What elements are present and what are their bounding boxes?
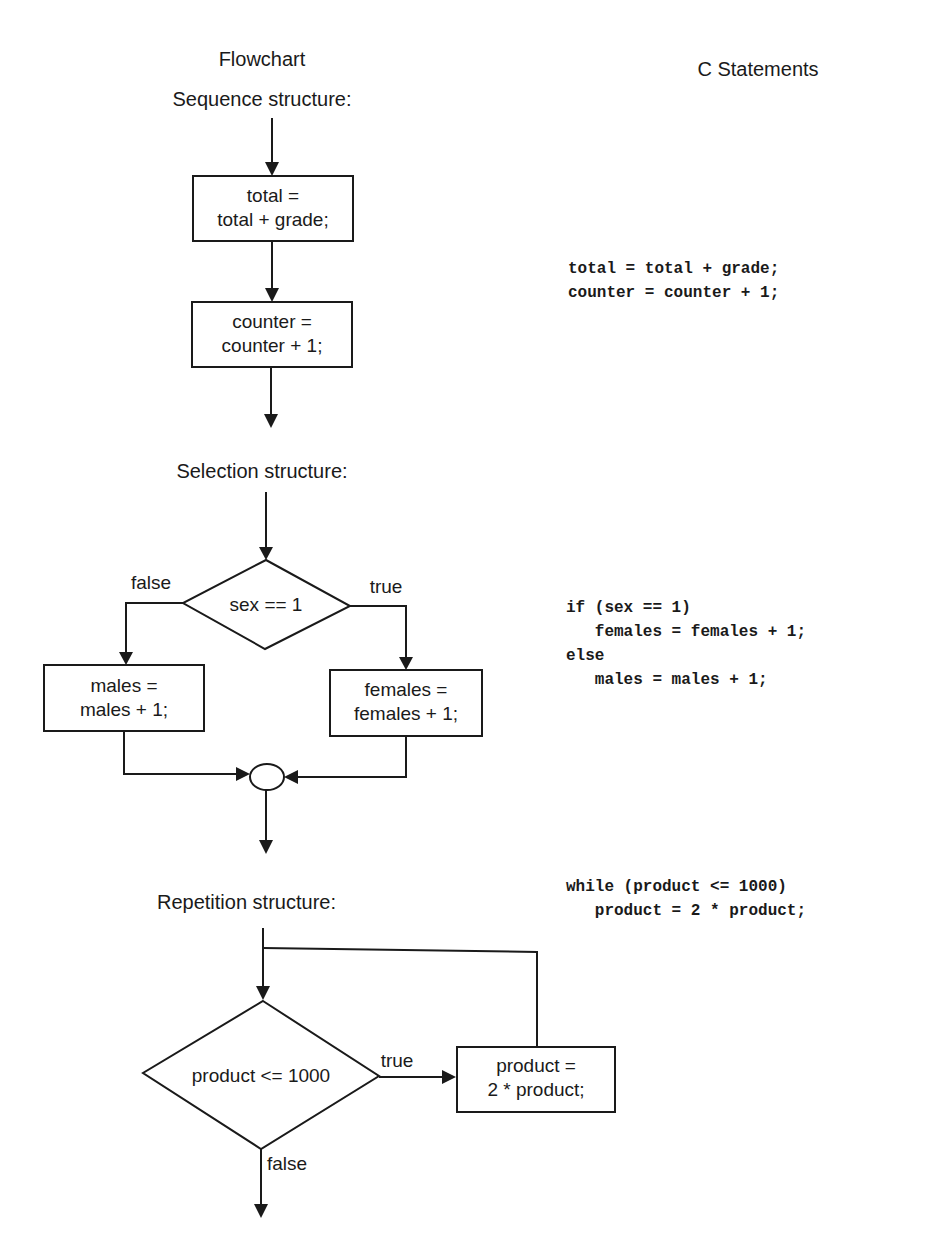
box-line: females + 1;	[354, 703, 458, 724]
arrow-head-icon	[265, 162, 279, 176]
code-line: while (product <= 1000)	[566, 878, 787, 896]
repetition-title: Repetition structure:	[157, 891, 336, 913]
code-line: counter = counter + 1;	[568, 284, 779, 302]
box-line: counter + 1;	[222, 335, 323, 356]
code-line: if (sex == 1)	[566, 599, 691, 617]
arrow-head-icon	[264, 414, 278, 428]
c-statements-header: C Statements	[697, 58, 818, 80]
selection-structure: Selection structure: sex == 1 false male…	[44, 460, 806, 854]
false-label: false	[131, 572, 171, 593]
arrow-head-icon	[254, 1204, 268, 1218]
false-merge-line	[124, 731, 238, 774]
box-line: product =	[496, 1055, 576, 1076]
box-line: total =	[247, 185, 299, 206]
code-line: males = males + 1;	[566, 671, 768, 689]
arrow-head-icon	[236, 767, 250, 781]
repetition-structure: Repetition structure: product <= 1000 tr…	[143, 878, 806, 1218]
box-line: total + grade;	[217, 209, 328, 230]
arrow-head-icon	[119, 652, 133, 665]
box-line: females =	[365, 679, 448, 700]
false-label: false	[267, 1153, 307, 1174]
code-line: females = females + 1;	[566, 623, 806, 641]
true-merge-line	[297, 736, 406, 777]
box-line: counter =	[232, 311, 312, 332]
arrow-head-icon	[265, 288, 279, 302]
arrow-head-icon	[259, 840, 273, 854]
selection-title: Selection structure:	[176, 460, 347, 482]
code-line: total = total + grade;	[568, 260, 779, 278]
flowchart-header: Flowchart	[219, 48, 306, 70]
condition-text: sex == 1	[230, 594, 303, 615]
arrow-head-icon	[256, 986, 270, 1000]
false-branch-line	[126, 603, 183, 655]
true-label: true	[370, 576, 403, 597]
box-line: males + 1;	[80, 699, 168, 720]
box-line: 2 * product;	[487, 1079, 584, 1100]
code-line: product = 2 * product;	[566, 902, 806, 920]
arrow-head-icon	[284, 770, 298, 784]
flowchart-diagram: Flowchart C Statements Sequence structur…	[0, 0, 944, 1252]
merge-connector-circle	[250, 764, 284, 790]
arrow-head-icon	[399, 657, 413, 670]
box-line: males =	[90, 675, 157, 696]
true-label: true	[381, 1050, 414, 1071]
arrow-head-icon	[442, 1070, 456, 1084]
condition-text: product <= 1000	[192, 1065, 330, 1086]
sequence-structure: Sequence structure: total = total + grad…	[173, 88, 780, 428]
sequence-title: Sequence structure:	[173, 88, 352, 110]
code-line: else	[566, 647, 604, 665]
true-branch-line	[350, 606, 406, 660]
arrow-head-icon	[259, 547, 273, 560]
